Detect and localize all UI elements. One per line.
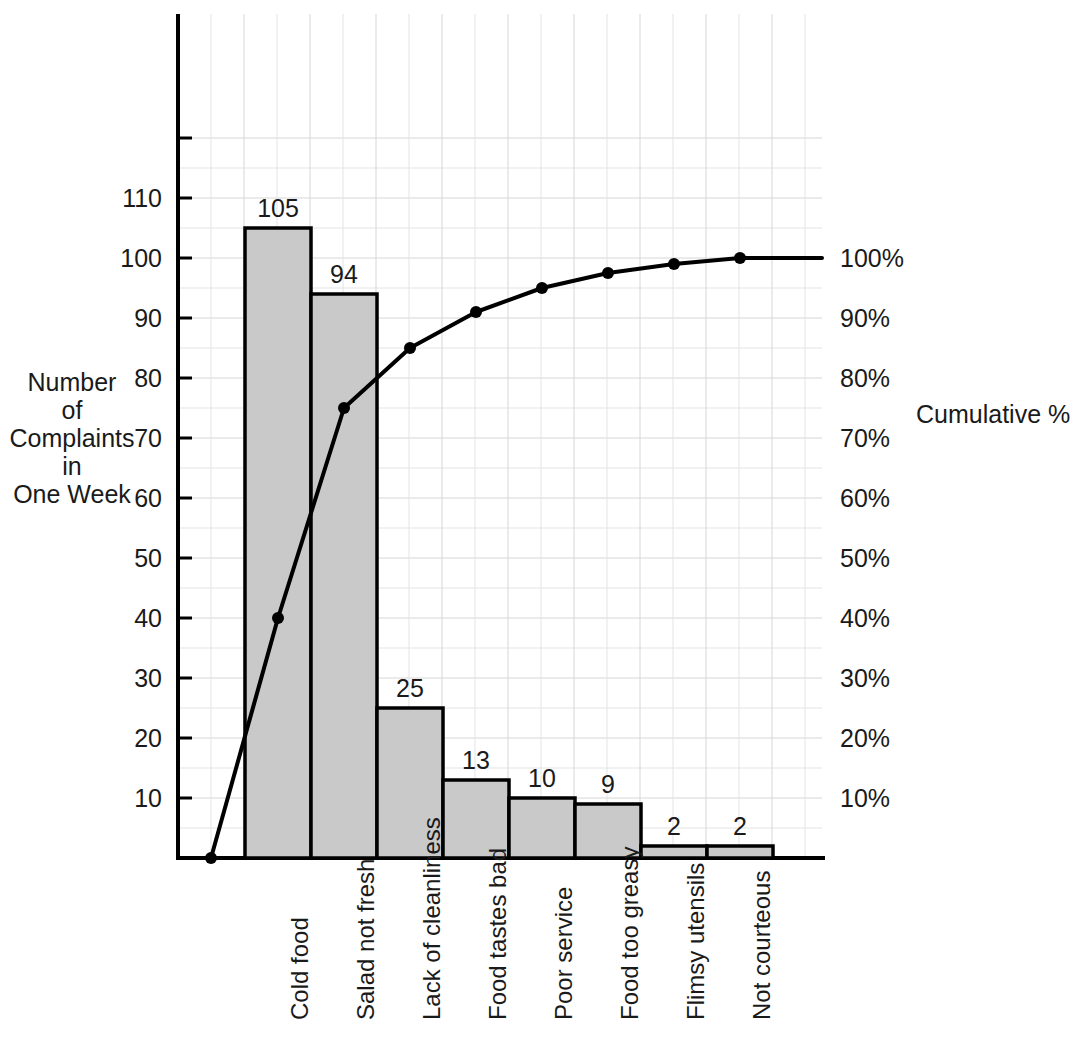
category-label: Flimsy utensils	[684, 863, 708, 1020]
secondary-axis-title: Cumulative %	[916, 400, 1070, 429]
primary-axis-tick-label: 50	[90, 546, 162, 571]
primary-axis-tick-label: 20	[90, 726, 162, 751]
primary-axis-tick-label: 110	[90, 186, 162, 211]
bar	[509, 798, 575, 858]
bar-value-label: 94	[330, 262, 358, 287]
bar-value-label: 105	[257, 196, 299, 221]
cumulative-data-point	[404, 342, 416, 354]
bar-value-label: 25	[396, 676, 424, 701]
category-label: Food tastes bad	[486, 848, 510, 1020]
cumulative-data-point	[272, 612, 284, 624]
cumulative-data-point	[470, 306, 482, 318]
category-label: Salad not fresh	[354, 859, 378, 1020]
primary-axis-title-line: of	[8, 396, 136, 424]
secondary-axis-tick-label: 10%	[840, 786, 890, 811]
bar-value-label: 2	[733, 814, 747, 839]
cumulative-data-point	[536, 282, 548, 294]
primary-axis-tick-label: 40	[90, 606, 162, 631]
category-label: Poor service	[552, 887, 576, 1020]
primary-axis-title-line: Number	[8, 368, 136, 396]
category-label: Lack of cleanliness	[420, 817, 444, 1020]
bar-group	[245, 228, 773, 858]
cumulative-data-point	[205, 852, 217, 864]
primary-axis-title-line: One Week	[8, 480, 136, 508]
secondary-axis-tick-label: 90%	[840, 306, 890, 331]
secondary-axis-tick-label: 100%	[840, 246, 904, 271]
bar-value-label: 13	[462, 748, 490, 773]
cumulative-data-point	[338, 402, 350, 414]
primary-axis-title-line: Complaints	[8, 424, 136, 452]
bar	[443, 780, 509, 858]
secondary-axis-tick-label: 30%	[840, 666, 890, 691]
bar	[311, 294, 377, 858]
secondary-axis-tick-label: 60%	[840, 486, 890, 511]
secondary-axis-tick-label: 50%	[840, 546, 890, 571]
primary-axis-tick-label: 100	[90, 246, 162, 271]
bar-value-label: 9	[601, 772, 615, 797]
secondary-axis-tick-label: 80%	[840, 366, 890, 391]
primary-axis-tick-label: 90	[90, 306, 162, 331]
category-label: Not courteous	[750, 871, 774, 1020]
primary-axis-tick-label: 30	[90, 666, 162, 691]
bar-value-label: 2	[667, 814, 681, 839]
category-label: Food too greasy	[618, 847, 642, 1020]
primary-axis-tick-label: 10	[90, 786, 162, 811]
primary-axis-title-line: in	[8, 452, 136, 480]
secondary-axis-tick-label: 20%	[840, 726, 890, 751]
cumulative-data-point	[602, 267, 614, 279]
bar	[641, 846, 707, 858]
cumulative-data-point	[734, 252, 746, 264]
category-label: Cold food	[288, 917, 312, 1020]
secondary-axis-tick-label: 40%	[840, 606, 890, 631]
secondary-axis-tick-label: 70%	[840, 426, 890, 451]
bar-value-label: 10	[528, 766, 556, 791]
bar	[707, 846, 773, 858]
cumulative-data-point	[668, 258, 680, 270]
primary-axis-title: NumberofComplaintsinOne Week	[8, 368, 136, 508]
